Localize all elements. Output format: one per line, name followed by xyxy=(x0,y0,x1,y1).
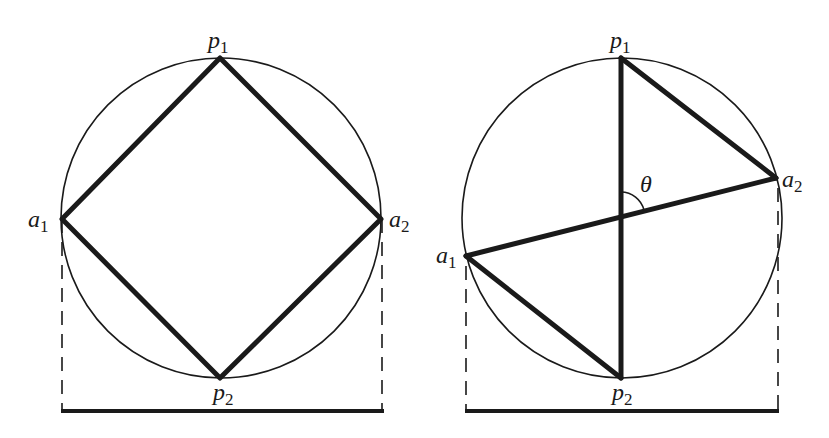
left-label-a2: a2 xyxy=(389,206,410,236)
right-chord-a1-p2 xyxy=(466,256,621,378)
left-label-a1: a1 xyxy=(28,206,49,236)
right-panel: p1 a2 p2 a1 θ xyxy=(436,27,803,411)
theta-label: θ xyxy=(640,171,652,197)
right-label-p2: p2 xyxy=(610,379,633,409)
right-label-a1: a1 xyxy=(436,242,457,272)
geometry-figure: p1 a2 p2 a1 p1 a2 p2 a1 xyxy=(0,0,829,438)
left-square xyxy=(62,58,381,378)
left-label-p1: p1 xyxy=(206,27,229,57)
right-chord-p1-a2 xyxy=(621,58,776,178)
right-label-p1: p1 xyxy=(608,27,631,57)
left-circle xyxy=(61,58,381,378)
left-panel: p1 a2 p2 a1 xyxy=(28,27,410,411)
right-label-a2: a2 xyxy=(782,166,803,196)
left-label-p2: p2 xyxy=(211,379,234,409)
